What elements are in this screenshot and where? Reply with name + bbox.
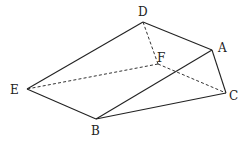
edge-FE xyxy=(27,64,158,89)
edge-FC xyxy=(158,64,226,93)
label-B: B xyxy=(91,124,100,138)
edge-AB xyxy=(96,50,212,119)
edge-DF xyxy=(143,22,158,64)
edge-DA xyxy=(143,22,212,50)
edge-DE xyxy=(27,22,143,89)
label-A: A xyxy=(217,41,227,55)
edge-EB xyxy=(27,89,96,119)
vertex-labels: D A F E C B xyxy=(10,5,238,138)
dashed-edges xyxy=(27,22,226,93)
edge-BC xyxy=(96,93,226,119)
polyhedron-diagram: D A F E C B xyxy=(0,0,250,145)
label-F: F xyxy=(157,51,165,65)
label-E: E xyxy=(10,83,19,97)
edge-AC xyxy=(212,50,226,93)
label-D: D xyxy=(138,5,148,19)
label-C: C xyxy=(229,89,238,103)
